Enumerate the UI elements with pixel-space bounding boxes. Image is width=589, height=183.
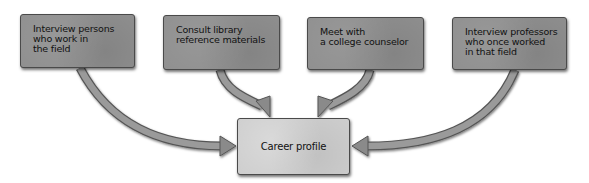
target-box-career-profile: Career profile bbox=[237, 118, 350, 175]
source-box-consult-library: Consult library reference materials bbox=[163, 15, 280, 70]
arrow-consult-library bbox=[220, 70, 270, 117]
source-box-meet-counselor: Meet with a college counselor bbox=[307, 17, 424, 70]
target-label: Career profile bbox=[238, 142, 349, 152]
source-box-interview-professors: Interview professors who once worked in … bbox=[452, 17, 567, 70]
source-label: Consult library reference materials bbox=[176, 25, 265, 45]
source-box-interview-persons: Interview persons who work in the field bbox=[20, 14, 135, 68]
source-label: Meet with a college counselor bbox=[320, 27, 408, 47]
arrow-interview-persons bbox=[80, 68, 236, 156]
arrow-meet-counselor bbox=[318, 70, 370, 117]
source-label: Interview persons who work in the field bbox=[33, 24, 114, 54]
arrow-interview-professors bbox=[352, 70, 515, 156]
source-label: Interview professors who once worked in … bbox=[465, 27, 558, 57]
